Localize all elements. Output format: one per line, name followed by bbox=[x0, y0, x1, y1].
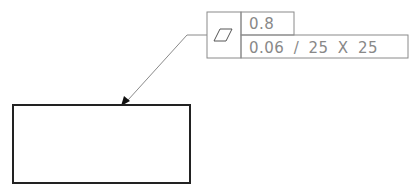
tolerance-unit-area: 0.06 / 25 X 25 bbox=[249, 39, 378, 57]
feature-control-frame: 0.8 0.06 / 25 X 25 bbox=[207, 12, 408, 58]
part-outline bbox=[13, 105, 190, 183]
tolerance-total: 0.8 bbox=[249, 15, 274, 33]
symbol-cell bbox=[207, 12, 241, 58]
flatness-icon bbox=[214, 29, 232, 41]
leader-line bbox=[121, 35, 207, 106]
gdt-drawing: 0.8 0.06 / 25 X 25 bbox=[0, 0, 420, 191]
